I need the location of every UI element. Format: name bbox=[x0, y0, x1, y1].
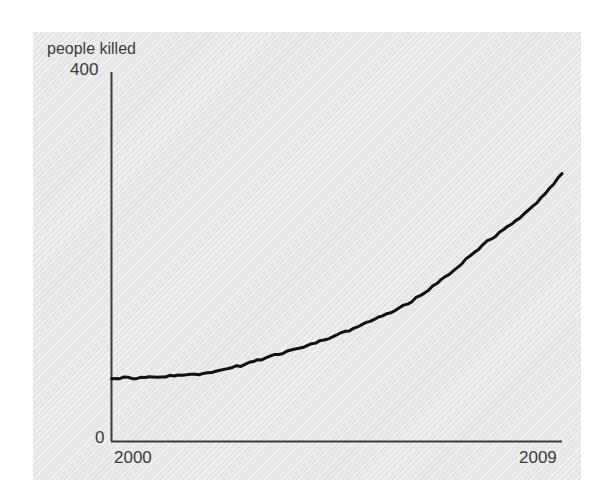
chart-figure: people killed 400 0 2000 2009 bbox=[0, 0, 603, 497]
x-axis-tick-start: 2000 bbox=[114, 449, 152, 466]
y-axis-tick-min: 0 bbox=[95, 429, 104, 446]
data-series-line bbox=[112, 174, 563, 379]
y-axis-tick-max: 400 bbox=[70, 61, 98, 78]
y-axis-label: people killed bbox=[47, 41, 136, 57]
x-axis-tick-end: 2009 bbox=[519, 449, 557, 466]
